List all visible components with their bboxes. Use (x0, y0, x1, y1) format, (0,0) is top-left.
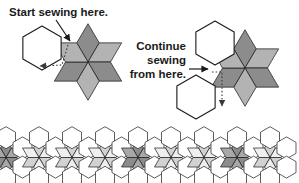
start-sewing-label: Start sewing here. (9, 6, 108, 18)
continue-label-line1: Continue (136, 40, 186, 52)
continue-label-line2: sewing (147, 54, 186, 66)
diagram-canvas: Start sewing here. Continue sewing from … (0, 0, 299, 183)
continue-label-line3: from here. (130, 68, 186, 80)
